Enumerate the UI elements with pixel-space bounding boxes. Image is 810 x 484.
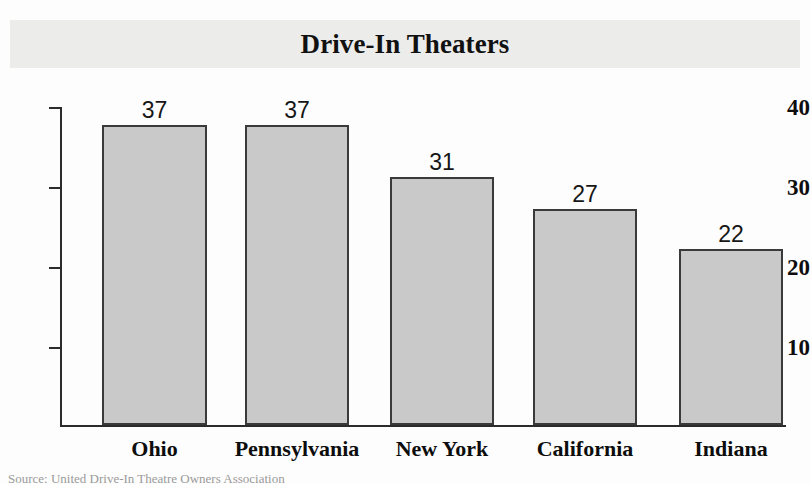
bar-indiana[interactable]	[679, 249, 783, 425]
source-footnote: Source: United Drive-In Theatre Owners A…	[8, 471, 648, 484]
bar-ohio[interactable]	[102, 125, 207, 425]
bar-value-indiana: 22	[679, 221, 783, 248]
y-tick-label-30: 30	[766, 175, 810, 201]
x-tick-label-new-york: New York	[375, 436, 509, 462]
y-tick-mark-10	[49, 347, 61, 349]
bar-value-ohio: 37	[102, 97, 207, 124]
x-tick-label-california: California	[518, 436, 652, 462]
bar-pennsylvania[interactable]	[245, 125, 349, 425]
x-tick-label-pennsylvania: Pennsylvania	[222, 436, 372, 462]
x-tick-label-indiana: Indiana	[668, 436, 794, 462]
y-tick-mark-40	[49, 107, 61, 109]
chart-page: Drive-In Theaters 40 30 20 10 37 Ohio 37…	[0, 0, 810, 484]
y-tick-label-40: 40	[766, 95, 810, 121]
bar-california[interactable]	[533, 209, 637, 425]
bar-value-pennsylvania: 37	[245, 97, 349, 124]
bar-chart-plot-area: 40 30 20 10 37 Ohio 37 Pennsylvania 31 N…	[0, 0, 810, 484]
bar-value-new-york: 31	[390, 149, 494, 176]
x-tick-label-ohio: Ohio	[92, 436, 217, 462]
y-tick-mark-20	[49, 267, 61, 269]
bar-new-york[interactable]	[390, 177, 494, 425]
x-axis-line	[60, 425, 786, 427]
bar-value-california: 27	[533, 181, 637, 208]
y-tick-mark-30	[49, 187, 61, 189]
